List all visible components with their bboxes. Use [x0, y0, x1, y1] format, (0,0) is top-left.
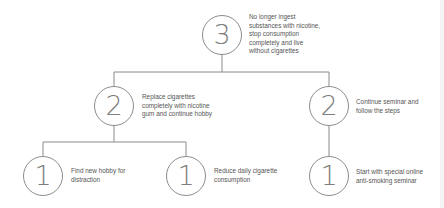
node-mid-right-level: 2 [320, 92, 337, 119]
node-bottom-left: 1 [23, 156, 63, 196]
node-top: 3 [202, 15, 242, 55]
node-bottom-right-level: 1 [320, 162, 337, 189]
node-bottom-left-text: Find new hobby for distraction [71, 167, 125, 184]
node-top-level: 3 [213, 21, 230, 48]
node-mid-right: 2 [309, 86, 349, 126]
node-mid-left-text: Replace cigarettes completely with nicot… [142, 93, 212, 119]
node-mid-left: 2 [94, 86, 134, 126]
node-bottom-right-text: Start with special online anti-smoking s… [356, 168, 423, 185]
node-bottom-left-level: 1 [34, 162, 51, 189]
node-bottom-middle-text: Reduce daily cigarette consumption [214, 167, 277, 184]
node-bottom-middle-level: 1 [177, 162, 194, 189]
node-bottom-right: 1 [309, 156, 349, 196]
node-mid-right-text: Continue seminar and follow the steps [356, 98, 419, 115]
node-top-text: No longer ingest substances with nicotin… [249, 13, 320, 56]
node-mid-left-level: 2 [105, 92, 122, 119]
node-bottom-middle: 1 [166, 156, 206, 196]
